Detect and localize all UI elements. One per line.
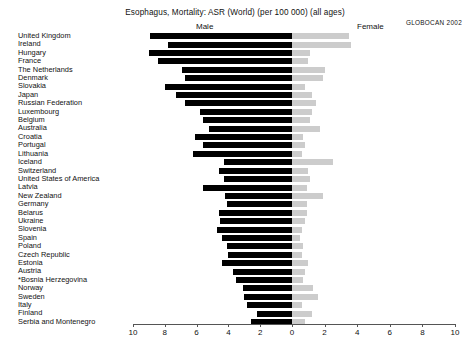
chart-row: Belgium bbox=[0, 116, 470, 124]
female-bar bbox=[292, 100, 316, 106]
male-bar bbox=[203, 117, 292, 123]
female-bar bbox=[292, 269, 305, 275]
chart-row: Italy bbox=[0, 301, 470, 309]
male-bar bbox=[244, 294, 292, 300]
male-bar bbox=[227, 243, 292, 249]
chart-row: Iceland bbox=[0, 158, 470, 166]
male-bar bbox=[165, 84, 292, 90]
chart-row: Estonia bbox=[0, 259, 470, 267]
chart-row: Slovakia bbox=[0, 82, 470, 90]
male-bar bbox=[149, 50, 292, 56]
female-bar bbox=[292, 42, 351, 48]
female-bar bbox=[292, 227, 302, 233]
male-bar bbox=[243, 285, 292, 291]
male-bar bbox=[257, 311, 292, 317]
axis-tick-label: 2 bbox=[258, 328, 262, 337]
male-bar bbox=[195, 134, 292, 140]
female-series-label: Female bbox=[357, 22, 384, 31]
chart-row: Germany bbox=[0, 200, 470, 208]
chart-row: Portugal bbox=[0, 141, 470, 149]
chart-row: Denmark bbox=[0, 74, 470, 82]
male-bar bbox=[247, 302, 292, 308]
male-bar bbox=[209, 126, 292, 132]
chart-row: United Kingdom bbox=[0, 32, 470, 40]
axis-tick-label: 2 bbox=[322, 328, 326, 337]
female-bar bbox=[292, 201, 307, 207]
female-bar bbox=[292, 92, 312, 98]
chart-row: Ireland bbox=[0, 40, 470, 48]
chart-row: Norway bbox=[0, 284, 470, 292]
female-bar bbox=[292, 294, 318, 300]
female-bar bbox=[292, 142, 305, 148]
female-bar bbox=[292, 235, 300, 241]
female-bar bbox=[292, 243, 303, 249]
male-bar bbox=[185, 100, 292, 106]
axis-tick-label: 10 bbox=[129, 328, 138, 337]
male-bar bbox=[219, 210, 292, 216]
female-bar bbox=[292, 302, 302, 308]
chart-row: Australia bbox=[0, 124, 470, 132]
male-bar bbox=[193, 151, 292, 157]
axis-tick bbox=[422, 324, 423, 327]
chart-title: Esophagus, Mortality: ASR (World) (per 1… bbox=[0, 8, 470, 17]
axis-tick-label: 10 bbox=[451, 328, 460, 337]
chart-row: *Bosnia Herzegovina bbox=[0, 276, 470, 284]
axis-tick bbox=[390, 324, 391, 327]
axis-tick bbox=[455, 324, 456, 327]
axis-tick bbox=[325, 324, 326, 327]
chart-row: Ukraine bbox=[0, 217, 470, 225]
chart-row: Czech Republic bbox=[0, 251, 470, 259]
male-bar bbox=[228, 252, 292, 258]
male-bar bbox=[236, 277, 292, 283]
male-bar bbox=[168, 42, 292, 48]
female-bar bbox=[292, 126, 320, 132]
axis-tick bbox=[133, 324, 134, 327]
male-bar bbox=[224, 159, 292, 165]
female-bar bbox=[292, 260, 308, 266]
axis-tick-label: 4 bbox=[226, 328, 230, 337]
female-bar bbox=[292, 84, 305, 90]
female-bar bbox=[292, 58, 308, 64]
axis-tick-label: 4 bbox=[355, 328, 359, 337]
chart-row: Luxembourg bbox=[0, 108, 470, 116]
female-bar bbox=[292, 185, 307, 191]
male-bar bbox=[224, 176, 292, 182]
chart-row: Sweden bbox=[0, 293, 470, 301]
chart-row: Russian Federation bbox=[0, 99, 470, 107]
female-bar bbox=[292, 151, 302, 157]
chart-row: Spain bbox=[0, 234, 470, 242]
female-bar bbox=[292, 159, 333, 165]
male-bar bbox=[219, 168, 292, 174]
female-bar bbox=[292, 109, 312, 115]
female-bar bbox=[292, 33, 349, 39]
male-bar bbox=[158, 58, 292, 64]
plot-area: United KingdomIrelandHungaryFranceThe Ne… bbox=[0, 32, 470, 322]
axis-tick-label: 0 bbox=[290, 328, 294, 337]
male-bar bbox=[222, 235, 292, 241]
chart-row: New Zealand bbox=[0, 192, 470, 200]
axis-tick bbox=[357, 324, 358, 327]
female-bar bbox=[292, 75, 323, 81]
axis-tick bbox=[165, 324, 166, 327]
male-bar bbox=[222, 260, 292, 266]
country-label: Sweden bbox=[18, 293, 130, 301]
chart-row: The Netherlands bbox=[0, 66, 470, 74]
chart-row: Croatia bbox=[0, 133, 470, 141]
male-bar bbox=[203, 142, 292, 148]
male-bar bbox=[176, 92, 292, 98]
male-bar bbox=[182, 67, 292, 73]
female-bar bbox=[292, 193, 323, 199]
male-series-label: Male bbox=[196, 22, 213, 31]
axis-tick bbox=[292, 324, 293, 327]
female-bar bbox=[292, 277, 303, 283]
male-bar bbox=[227, 201, 292, 207]
chart-row: Latvia bbox=[0, 183, 470, 191]
chart-row: Poland bbox=[0, 242, 470, 250]
axis-tick-label: 6 bbox=[388, 328, 392, 337]
female-bar bbox=[292, 176, 310, 182]
axis-tick bbox=[260, 324, 261, 327]
axis-tick bbox=[197, 324, 198, 327]
female-bar bbox=[292, 218, 305, 224]
female-bar bbox=[292, 117, 310, 123]
chart-row: Lithuania bbox=[0, 150, 470, 158]
